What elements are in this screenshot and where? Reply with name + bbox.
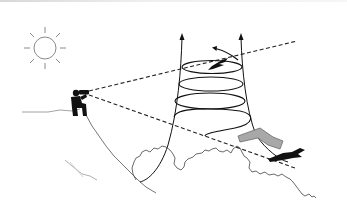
flight-path-arrowhead bbox=[212, 46, 217, 51]
hill-outline bbox=[22, 109, 156, 193]
sun-icon bbox=[24, 27, 66, 69]
thermal-soaring-diagram bbox=[0, 0, 347, 217]
thermal-updraft-arrows bbox=[140, 38, 288, 182]
approach-arrow bbox=[238, 128, 283, 149]
person-with-binoculars-icon bbox=[71, 90, 89, 116]
top-edge-band bbox=[0, 0, 347, 2]
diagram-canvas bbox=[0, 0, 347, 217]
sight-line-upper bbox=[89, 41, 297, 91]
sight-lines bbox=[89, 41, 297, 168]
bird-icon-gliding bbox=[268, 148, 305, 162]
arrowheads-up bbox=[180, 33, 244, 40]
